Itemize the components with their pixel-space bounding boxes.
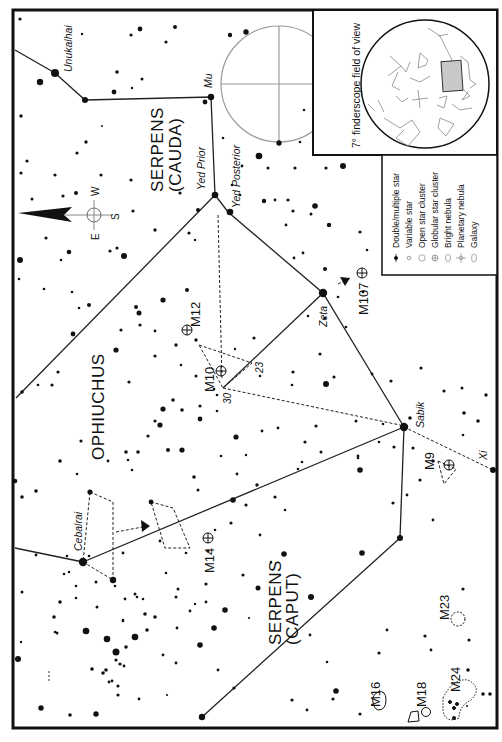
- constellation-serpens-cauda-sub: (CAUDA): [166, 118, 185, 192]
- legend-label-open-cluster: Open star cluster: [417, 183, 427, 248]
- label-unukalhai: Unukalhai: [62, 25, 74, 72]
- globular-m14-icon: [203, 533, 213, 543]
- globular-m9-icon: [444, 460, 454, 470]
- label-mu: Mu: [202, 73, 214, 88]
- label-30: 30: [222, 392, 233, 404]
- label-m14: M14: [202, 548, 217, 573]
- legend-label-bright-nebula: Bright nebula: [443, 198, 453, 248]
- chart-area-highlight: [441, 60, 463, 91]
- legend: Double/multiple star Variable star Open …: [382, 155, 497, 275]
- label-m23: M23: [437, 595, 452, 620]
- label-xi: Xi: [477, 450, 489, 461]
- globular-m10-icon: [216, 366, 226, 376]
- compass-w: W: [90, 186, 101, 196]
- label-m24: M24: [448, 667, 463, 692]
- compass-e: E: [90, 233, 101, 240]
- label-yed-posterior: Yed Posterior: [230, 144, 242, 208]
- legend-label-globular-cluster: Globular star cluster: [430, 172, 440, 248]
- legend-label-planetary-nebula: Planetary nebula: [456, 184, 466, 248]
- label-zeta: Zeta: [317, 306, 329, 328]
- globular-cluster-icon: [432, 255, 438, 261]
- globular-m107-icon: [357, 268, 367, 278]
- legend-label-double-star: Double/multiple star: [391, 173, 401, 248]
- star-chart: W E S: [0, 0, 502, 742]
- label-m12: M12: [188, 302, 203, 327]
- finder-inset: 7° finderscope field of view: [313, 10, 497, 155]
- label-m10: M10: [202, 367, 217, 392]
- compass-s: S: [110, 213, 121, 220]
- legend-label-variable-star: Variable star: [404, 201, 414, 248]
- label-m18: M18: [414, 682, 429, 707]
- label-m16: M16: [368, 682, 383, 707]
- label-yed-prior: Yed Prior: [195, 146, 207, 190]
- constellation-ophiuchus: OPHIUCHUS: [89, 353, 108, 460]
- label-23: 23: [254, 361, 265, 374]
- finder-caption: 7° finderscope field of view: [350, 23, 362, 148]
- legend-label-galaxy: Galaxy: [469, 221, 479, 248]
- constellation-serpens-caput-sub: (CAPUT): [283, 573, 302, 645]
- label-m9: M9: [422, 452, 437, 470]
- label-sabik: Sabik: [414, 401, 426, 428]
- label-cebalrai: Cebalrai: [72, 511, 84, 551]
- label-m107: M107: [356, 282, 371, 315]
- constellation-serpens-cauda: SERPENS: [148, 107, 167, 192]
